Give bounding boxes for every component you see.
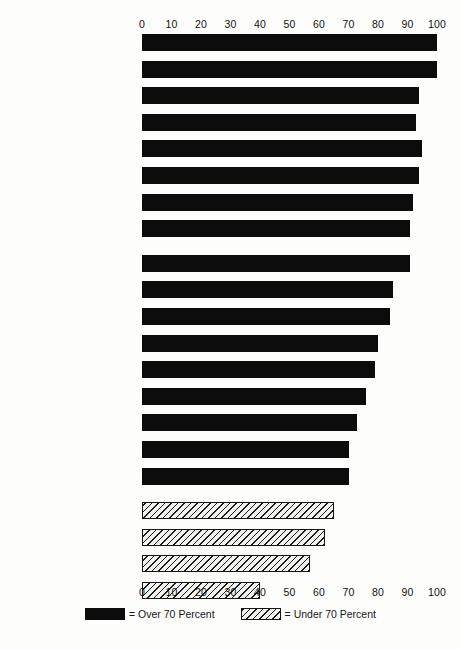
legend-swatch-hatched [241, 608, 281, 620]
x-axis-top-tick: 80 [372, 18, 384, 30]
chart-legend: = Over 70 Percent= Under 70 Percent [0, 608, 461, 620]
category-label: Feminine Hygiene [0, 196, 61, 208]
bar-solid[interactable] [142, 114, 416, 131]
chart-row: Laundering [0, 361, 461, 378]
category-label: Dieting [0, 585, 61, 597]
chart-row: Combing Hair [0, 441, 461, 458]
category-label: Dressing, Interview [0, 284, 61, 296]
legend-item: = Under 70 Percent [241, 608, 376, 620]
chart-row: Dressing, Interview [0, 281, 461, 298]
category-label: Setting Hair [0, 417, 61, 429]
category-label: Acne [0, 257, 61, 269]
legend-label: = Under 70 Percent [285, 608, 376, 620]
chart-row: Caring for Clothes [0, 308, 461, 325]
bar-solid[interactable] [142, 335, 378, 352]
chart-row: Shopping [0, 114, 461, 131]
category-label: Poise [0, 390, 61, 402]
bar-solid[interactable] [142, 414, 357, 431]
chart-row: Dry Cleaning [0, 87, 461, 104]
category-label: Exercise [0, 505, 61, 517]
chart-row: Shaving—Men [0, 555, 461, 572]
category-label: Basic Make-up [0, 337, 61, 349]
bar-solid[interactable] [142, 388, 366, 405]
category-label: Ironing [0, 143, 61, 155]
category-label: Dry Cleaning [0, 90, 61, 102]
x-axis-top: 0102030405060708090100 [142, 18, 437, 32]
bar-solid[interactable] [142, 255, 410, 272]
bar-solid[interactable] [142, 167, 419, 184]
category-label: Shaving—Men [0, 558, 61, 570]
x-axis-bottom-tick: 50 [283, 586, 295, 598]
chart-row: Basic Make-up [0, 335, 461, 352]
chart-row: Skin Types [0, 61, 461, 78]
category-label: Shopping [0, 116, 61, 128]
bar-solid[interactable] [142, 34, 437, 51]
x-axis-bottom-tick: 60 [313, 586, 325, 598]
bar-solid[interactable] [142, 441, 349, 458]
x-axis-bottom-tick: 0 [139, 586, 145, 598]
chart-row: Exercise [0, 502, 461, 519]
category-label: Combing Hair [0, 444, 61, 456]
chart-row: Shampooing [0, 220, 461, 237]
bar-solid[interactable] [142, 61, 437, 78]
category-label: Laundering [0, 364, 61, 376]
bar-hatched[interactable] [142, 502, 334, 519]
x-axis-bottom-tick: 90 [401, 586, 413, 598]
chart-row: Shaving—Women [0, 34, 461, 51]
category-label: Manicure [0, 470, 61, 482]
category-label: Advanced Make-up [0, 531, 61, 543]
bar-solid[interactable] [142, 220, 410, 237]
bar-solid[interactable] [142, 87, 419, 104]
x-axis-top-tick: 60 [313, 18, 325, 30]
bar-solid[interactable] [142, 361, 375, 378]
x-axis-top-tick: 30 [224, 18, 236, 30]
x-axis-top-tick: 70 [342, 18, 354, 30]
plot-area: Shaving—WomenSkin TypesDry CleaningShopp… [0, 34, 461, 582]
chart-row: Acne [0, 255, 461, 272]
x-axis-top-tick: 50 [283, 18, 295, 30]
category-label: Shampooing [0, 223, 61, 235]
x-axis-top-tick: 0 [139, 18, 145, 30]
x-axis-top-tick: 20 [195, 18, 207, 30]
chart-row: Poise [0, 388, 461, 405]
x-axis-bottom-tick: 20 [195, 586, 207, 598]
chart-row: Manicure [0, 468, 461, 485]
bar-solid[interactable] [142, 468, 349, 485]
x-axis-top-tick: 90 [401, 18, 413, 30]
figure-container: 0102030405060708090100 Shaving—WomenSkin… [0, 0, 461, 649]
bar-hatched[interactable] [142, 555, 310, 572]
category-label: Caring for Clothes [0, 311, 61, 323]
x-axis-bottom-tick: 100 [428, 586, 446, 598]
legend-label: = Over 70 Percent [129, 608, 215, 620]
chart-row: Basic Hygiene [0, 167, 461, 184]
x-axis-top-tick: 40 [254, 18, 266, 30]
x-axis-bottom: 0102030405060708090100 [142, 586, 437, 600]
category-label: Basic Hygiene [0, 170, 61, 182]
chart-row: Advanced Make-up [0, 529, 461, 546]
category-label: Skin Types [0, 63, 61, 75]
bar-solid[interactable] [142, 194, 413, 211]
chart-row: Setting Hair [0, 414, 461, 431]
x-axis-bottom-tick: 40 [254, 586, 266, 598]
x-axis-top-tick: 10 [165, 18, 177, 30]
bar-solid[interactable] [142, 281, 393, 298]
x-axis-bottom-tick: 70 [342, 586, 354, 598]
bar-solid[interactable] [142, 308, 390, 325]
bar-solid[interactable] [142, 140, 422, 157]
legend-item: = Over 70 Percent [85, 608, 215, 620]
legend-swatch-solid [85, 608, 125, 620]
x-axis-bottom-tick: 80 [372, 586, 384, 598]
x-axis-bottom-tick: 10 [165, 586, 177, 598]
chart-row: Ironing [0, 140, 461, 157]
x-axis-top-tick: 100 [428, 18, 446, 30]
x-axis-bottom-tick: 30 [224, 586, 236, 598]
bar-hatched[interactable] [142, 529, 325, 546]
chart-row: Feminine Hygiene [0, 194, 461, 211]
category-label: Shaving—Women [0, 37, 61, 49]
